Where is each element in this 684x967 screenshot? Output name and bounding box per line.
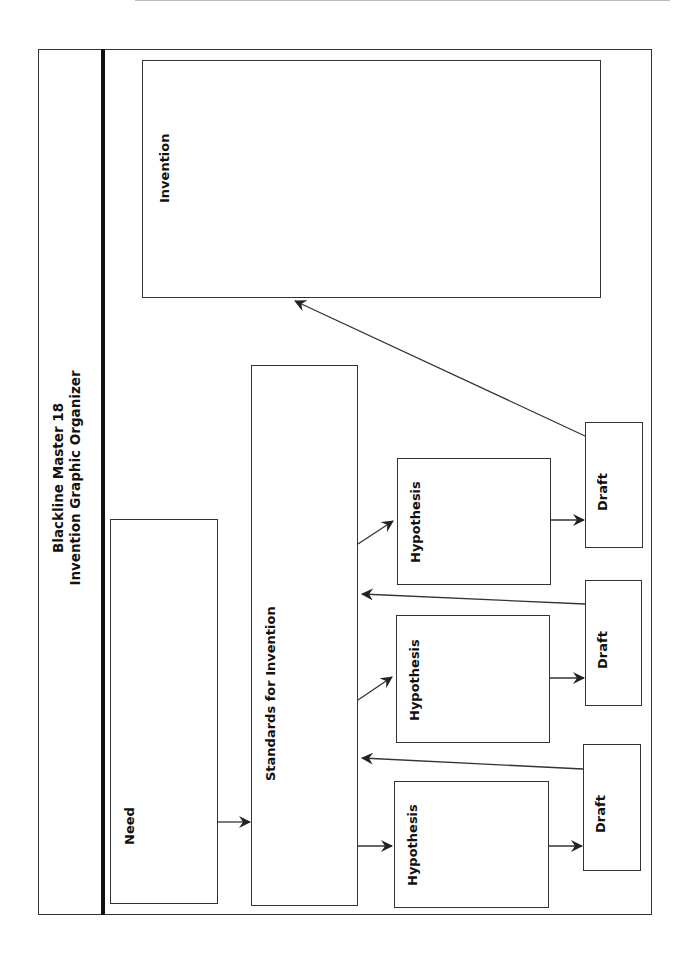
arrow-draft-3-to-standards <box>362 758 583 769</box>
arrow-draft-2-to-standards <box>362 594 585 604</box>
arrow-standards-to-hypothesis-1 <box>358 521 393 544</box>
arrow-standards-to-hypothesis-2 <box>358 677 392 700</box>
arrow-draft-1-to-invention <box>295 301 585 436</box>
connector-arrows <box>0 0 684 967</box>
